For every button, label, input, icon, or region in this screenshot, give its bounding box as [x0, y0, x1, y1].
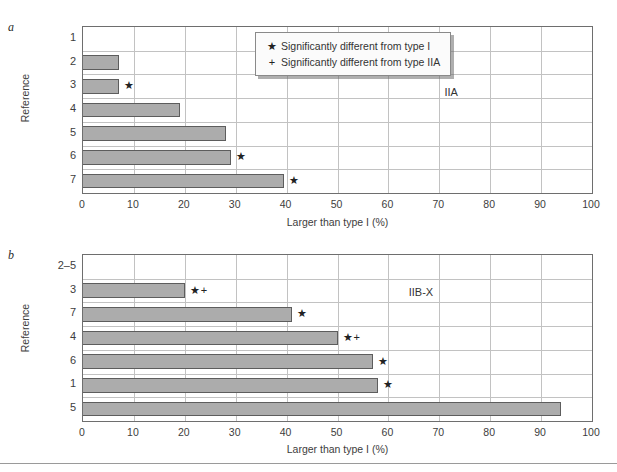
bar — [83, 307, 292, 322]
x-tick-label: 20 — [164, 198, 204, 210]
y-tick-label: 6 — [36, 354, 76, 366]
y-tick-label: 5 — [36, 401, 76, 413]
bar-significance-annotation: ★+ — [343, 332, 361, 343]
bar-significance-annotation: ★ — [236, 151, 247, 162]
y-gridline — [83, 374, 592, 375]
y-tick-label: 1 — [36, 377, 76, 389]
y-tick-label: 1 — [36, 31, 76, 43]
x-tick-label: 90 — [520, 426, 560, 438]
y-tick-label: 6 — [36, 149, 76, 161]
panel-label-b: b — [8, 248, 14, 263]
bar — [83, 402, 561, 417]
y-gridline — [83, 122, 592, 123]
x-tick-label: 10 — [113, 426, 153, 438]
fiber-type-annotation: IIA — [444, 86, 457, 98]
bar-row: ★ — [83, 378, 592, 393]
x-tick-label: 50 — [317, 426, 357, 438]
legend: ★Significantly different from type I+Sig… — [255, 32, 451, 76]
y-gridline — [83, 326, 592, 327]
x-tick-label: 0 — [62, 426, 102, 438]
bar — [83, 103, 180, 118]
x-tick-label: 60 — [367, 426, 407, 438]
bar-row: ★ — [83, 174, 592, 189]
bar-row — [83, 103, 592, 118]
x-tick-label: 60 — [367, 198, 407, 210]
bar — [83, 79, 119, 94]
legend-item-label: Significantly different from type I — [281, 38, 430, 54]
y-tick-label: 3 — [36, 78, 76, 90]
plot-area-a: ★★★IIA★Significantly different from type… — [82, 26, 593, 194]
y-tick-label: 4 — [36, 330, 76, 342]
bar-significance-annotation: ★ — [124, 80, 135, 91]
bar-row: ★ — [83, 307, 592, 322]
x-tick-label: 10 — [113, 198, 153, 210]
bar — [83, 55, 119, 70]
x-tick-label: 40 — [266, 426, 306, 438]
bar-row: ★ — [83, 150, 592, 165]
y-axis-title-a: Reference — [19, 38, 31, 158]
x-tick-label: 70 — [418, 198, 458, 210]
bar-significance-annotation: ★ — [289, 175, 300, 186]
bar — [83, 174, 284, 189]
x-tick-label: 40 — [266, 198, 306, 210]
y-gridline — [83, 397, 592, 398]
x-tick-label: 70 — [418, 426, 458, 438]
x-tick-label: 80 — [469, 198, 509, 210]
fiber-type-annotation: IIB-X — [409, 286, 433, 298]
bar — [83, 378, 378, 393]
y-gridline — [83, 302, 592, 303]
x-tick-label: 100 — [571, 198, 611, 210]
x-tick-label: 30 — [215, 198, 255, 210]
y-tick-label: 2 — [36, 55, 76, 67]
legend-item: ★Significantly different from type I — [263, 38, 440, 54]
bar-row — [83, 126, 592, 141]
bar-significance-annotation: ★ — [383, 379, 394, 390]
y-tick-label: 4 — [36, 102, 76, 114]
x-tick-label: 100 — [571, 426, 611, 438]
y-gridline — [83, 98, 592, 99]
panel-label-a: a — [8, 20, 14, 35]
chart-panel-b: b Reference Larger than type I (%) ★+★★+… — [0, 236, 617, 472]
y-gridline — [83, 279, 592, 280]
bar-row: ★+ — [83, 331, 592, 346]
figure: a Reference Larger than type I (%) ★★★II… — [0, 0, 617, 472]
bar — [83, 331, 338, 346]
x-tick-label: 50 — [317, 198, 357, 210]
x-tick-label: 20 — [164, 426, 204, 438]
star-icon: ★ — [263, 38, 281, 54]
bar-row — [83, 260, 592, 275]
x-tick-label: 90 — [520, 198, 560, 210]
plot-area-b: ★+★★+★★IIB-X — [82, 254, 593, 422]
legend-item: +Significantly different from type IIA — [263, 54, 440, 70]
bar-row: ★+ — [83, 283, 592, 298]
y-tick-label: 5 — [36, 126, 76, 138]
bar — [83, 150, 231, 165]
x-tick-label: 30 — [215, 426, 255, 438]
bar-row — [83, 402, 592, 417]
y-tick-label: 7 — [36, 306, 76, 318]
bar — [83, 283, 185, 298]
legend-item-label: Significantly different from type IIA — [281, 54, 440, 70]
y-gridline — [83, 350, 592, 351]
footer-divider — [0, 463, 617, 464]
y-tick-label: 7 — [36, 173, 76, 185]
x-axis-title-a: Larger than type I (%) — [82, 216, 593, 228]
bar-row: ★ — [83, 79, 592, 94]
y-tick-label: 2–5 — [36, 259, 76, 271]
y-gridline — [83, 169, 592, 170]
chart-panel-a: a Reference Larger than type I (%) ★★★II… — [0, 0, 617, 236]
plus-icon: + — [263, 54, 281, 70]
bar — [83, 126, 226, 141]
y-axis-title-b: Reference — [19, 268, 31, 388]
x-axis-title-b: Larger than type I (%) — [82, 443, 593, 455]
bar-significance-annotation: ★+ — [190, 285, 208, 296]
bar-row: ★ — [83, 354, 592, 369]
bar — [83, 354, 373, 369]
y-gridline — [83, 146, 592, 147]
bar-significance-annotation: ★ — [378, 356, 389, 367]
x-tick-label: 80 — [469, 426, 509, 438]
x-tick-label: 0 — [62, 198, 102, 210]
bar-significance-annotation: ★ — [297, 308, 308, 319]
y-tick-label: 3 — [36, 283, 76, 295]
